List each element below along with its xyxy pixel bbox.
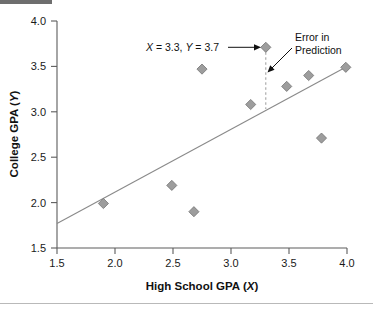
x-axis-title-close: ) — [254, 280, 258, 292]
error-label-line1: Error in — [295, 31, 330, 43]
point-value-arrow — [228, 44, 261, 50]
y-tick-label-4: 3.5 — [31, 60, 46, 72]
y-tick-label-1: 2.0 — [31, 197, 46, 209]
data-point-marker — [304, 70, 314, 80]
data-points-group — [98, 42, 351, 217]
data-point-marker — [282, 81, 292, 91]
x-axis-title-main: High School GPA ( — [146, 280, 247, 292]
data-point-marker — [341, 62, 351, 72]
x-tick-label-0: 1.5 — [49, 257, 64, 269]
scatter-plot: 1.5 2.0 2.5 3.0 3.5 4.0 1.5 2.0 2.5 3.0 … — [0, 0, 373, 310]
x-tick-label-3: 3.0 — [223, 257, 238, 269]
x-tick-label-5: 4.0 — [339, 257, 354, 269]
annot-eq-y: = 3.7 — [192, 41, 219, 53]
data-point-marker — [167, 180, 177, 190]
error-label-arrow — [268, 48, 293, 73]
data-point-marker — [316, 133, 326, 143]
x-tick-label-1: 2.0 — [107, 257, 122, 269]
y-axis-title-main: College GPA ( — [8, 102, 20, 178]
y-axis-title: College GPA (Y) — [8, 90, 20, 177]
y-tick-label-5: 4.0 — [31, 15, 46, 27]
x-tick-label-4: 3.5 — [281, 257, 296, 269]
x-axis-ticks — [57, 248, 347, 254]
data-point-marker — [246, 99, 256, 109]
y-axis-ticks — [51, 21, 57, 248]
point-value-annotation: X = 3.3, Y = 3.7 — [145, 41, 219, 53]
error-label-line2: Prediction — [295, 44, 342, 56]
x-tick-label-2: 2.5 — [165, 257, 180, 269]
bottom-divider — [0, 303, 373, 304]
data-point-marker-highlighted — [261, 42, 271, 52]
y-tick-label-2: 2.5 — [31, 151, 46, 163]
data-point-marker — [197, 64, 207, 74]
data-point-marker — [189, 207, 199, 217]
y-axis-title-close: ) — [8, 90, 20, 94]
regression-line — [57, 66, 347, 223]
x-axis-title: High School GPA (X) — [146, 280, 259, 292]
figure-container: 1.5 2.0 2.5 3.0 3.5 4.0 1.5 2.0 2.5 3.0 … — [0, 0, 373, 310]
y-tick-label-3: 3.0 — [31, 106, 46, 118]
y-tick-label-0: 1.5 — [31, 242, 46, 254]
annot-eq-x: = 3.3, — [153, 41, 185, 53]
